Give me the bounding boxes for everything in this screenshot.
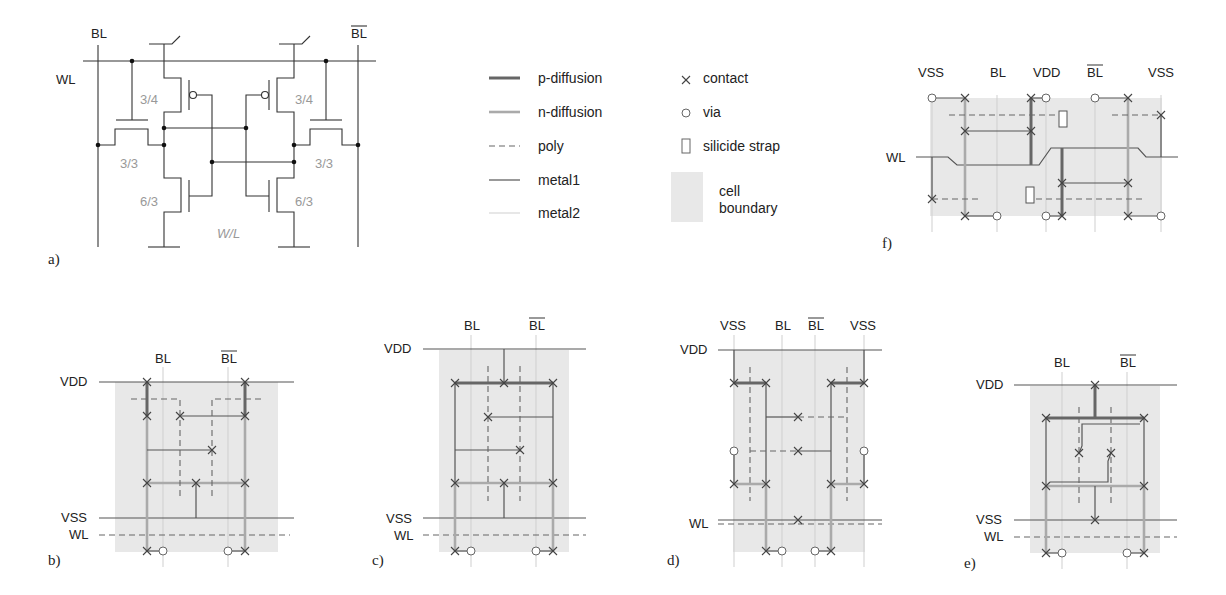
e-vss-label: VSS <box>976 512 1002 527</box>
vdd-symbol-right <box>279 36 310 44</box>
left-inverter <box>164 44 181 247</box>
d-vss-left-label: VSS <box>720 318 746 333</box>
c-vdd-label: VDD <box>384 341 411 356</box>
legend-silicide-strap: silicide strap <box>703 138 780 154</box>
sram-figure: BL BL WL <box>0 0 1226 595</box>
e-vdd-label: VDD <box>976 377 1003 392</box>
panel-f-label: f) <box>882 235 892 252</box>
access-right <box>294 129 358 145</box>
b-wl-label: WL <box>69 527 89 542</box>
nmos-right-ratio: 6/3 <box>295 194 313 209</box>
f-vss-right-label: VSS <box>1148 65 1174 80</box>
silicide-strap-top <box>1059 111 1067 127</box>
f-blb-label: BL <box>1087 65 1103 80</box>
cross-icon <box>682 76 690 84</box>
e-wl-label: WL <box>984 529 1004 544</box>
pmos-right-ratio: 3/4 <box>295 92 313 107</box>
pmos-left-bubble <box>190 92 197 99</box>
f-wl-label: WL <box>886 150 906 165</box>
pmos-right-bubble <box>262 92 269 99</box>
f-vdd-label: VDD <box>1033 65 1060 80</box>
panel-e-layout: BL BL VDD VSS WL e) <box>964 355 1177 572</box>
blb-label: BL <box>351 26 367 41</box>
panel-b-layout: BL BL VDD VSS WL b) <box>48 351 294 569</box>
legend-metal1: metal1 <box>538 172 580 188</box>
panel-b-label: b) <box>48 552 61 569</box>
cell-boundary <box>115 382 278 552</box>
f-bl-label: BL <box>990 65 1006 80</box>
panel-c-layout: BL BL VDD VSS WL c) <box>372 318 586 569</box>
wl-label: WL <box>56 72 76 87</box>
access-left <box>98 129 164 145</box>
e-blb-label: BL <box>1120 355 1136 370</box>
panel-a-schematic: BL BL WL <box>48 26 376 268</box>
panel-c-label: c) <box>372 552 384 569</box>
access-right-ratio: 3/3 <box>315 156 333 171</box>
junction-dots <box>96 59 361 165</box>
access-left-ratio: 3/3 <box>120 156 138 171</box>
legend-contact: contact <box>703 70 748 86</box>
panel-a-label: a) <box>48 251 60 268</box>
c-bl-label: BL <box>464 318 480 333</box>
legend-poly: poly <box>538 138 564 154</box>
d-wl-label: WL <box>689 516 709 531</box>
legend-boundary: boundary <box>719 200 777 216</box>
gray-box-icon <box>671 172 703 222</box>
d-bl-label: BL <box>775 318 791 333</box>
d-vss-right-label: VSS <box>850 318 876 333</box>
right-gate-wire <box>246 95 269 196</box>
circle-icon <box>682 109 690 117</box>
b-blb-label: BL <box>221 351 237 366</box>
vdd-symbol-left <box>149 36 180 44</box>
f-vss-left-label: VSS <box>918 65 944 80</box>
left-gate-wire <box>189 95 212 196</box>
c-blb-label: BL <box>529 318 545 333</box>
d-blb-label: BL <box>808 318 824 333</box>
panel-d-label: d) <box>667 552 680 569</box>
b-vss-label: VSS <box>61 510 87 525</box>
bl-label: BL <box>91 26 107 41</box>
b-bl-label: BL <box>155 351 171 366</box>
legend-n-diffusion: n-diffusion <box>538 104 602 120</box>
c-vss-label: VSS <box>386 511 412 526</box>
legend-metal2: metal2 <box>538 205 580 221</box>
panel-f-layout: VSS BL VDD BL VSS WL <box>882 65 1178 252</box>
legend-p-diffusion: p-diffusion <box>538 70 602 86</box>
c-wl-label: WL <box>394 528 414 543</box>
panel-d-layout: VSS BL BL VSS VDD WL d) <box>667 318 882 569</box>
rectangle-icon <box>682 139 690 153</box>
legend-cell: cell <box>719 183 740 199</box>
panel-e-label: e) <box>964 555 976 572</box>
legend: p-diffusion n-diffusion poly metal1 meta… <box>489 70 780 222</box>
e-bl-label: BL <box>1054 355 1070 370</box>
nmos-left-ratio: 6/3 <box>140 194 158 209</box>
legend-via: via <box>703 104 721 120</box>
right-inverter <box>277 44 294 247</box>
pmos-left-ratio: 3/4 <box>140 92 158 107</box>
d-vdd-label: VDD <box>680 342 707 357</box>
b-vdd-label: VDD <box>60 374 87 389</box>
silicide-strap-bottom <box>1026 187 1034 203</box>
wl-caption: W/L <box>217 226 240 241</box>
